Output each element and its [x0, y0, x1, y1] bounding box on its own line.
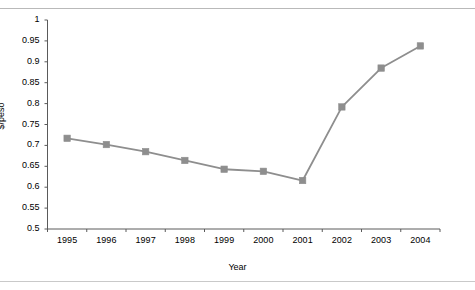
- y-axis-tick-label: 0.6: [10, 181, 40, 191]
- y-axis-tick-label: 0.9: [10, 56, 40, 66]
- series-marker: [417, 43, 423, 49]
- x-axis-title: Year: [0, 262, 475, 272]
- series-marker: [64, 135, 70, 141]
- y-axis-tick-label: 0.8: [10, 98, 40, 108]
- bottom-divider: [0, 281, 475, 282]
- y-axis-tick-label: 0.85: [10, 77, 40, 87]
- x-axis-tick-label: 1996: [86, 235, 126, 245]
- series-marker: [103, 141, 109, 147]
- x-axis-tick-label: 1997: [126, 235, 166, 245]
- series-line: [67, 46, 420, 181]
- x-axis-tick-label: 2001: [283, 235, 323, 245]
- series-marker: [299, 177, 305, 183]
- y-axis-tick-label: 0.65: [10, 160, 40, 170]
- y-axis-tick-label: 0.95: [10, 35, 40, 45]
- chart-series: [64, 43, 424, 184]
- y-axis-tick-label: 0.55: [10, 202, 40, 212]
- chart-figure: $/peso Year 0.50.550.60.650.70.750.80.85…: [0, 9, 475, 281]
- screenshot-page: $/peso Year 0.50.550.60.650.70.750.80.85…: [0, 0, 475, 290]
- series-marker: [142, 148, 148, 154]
- chart-axes: [45, 20, 441, 232]
- series-marker: [339, 104, 345, 110]
- x-axis-tick-label: 2000: [243, 235, 283, 245]
- x-axis-tick-label: 2004: [400, 235, 440, 245]
- x-axis-tick-label: 1999: [204, 235, 244, 245]
- y-axis-tick-label: 0.7: [10, 139, 40, 149]
- y-axis-tick-label: 1: [10, 14, 40, 24]
- series-marker: [221, 166, 227, 172]
- y-axis-tick-label: 0.5: [10, 223, 40, 233]
- x-axis-tick-label: 2003: [361, 235, 401, 245]
- x-axis-tick-label: 1998: [165, 235, 205, 245]
- series-marker: [378, 65, 384, 71]
- x-axis-tick-label: 1995: [47, 235, 87, 245]
- x-axis-tick-label: 2002: [322, 235, 362, 245]
- top-cutoff-text: [0, 0, 475, 7]
- series-marker: [182, 157, 188, 163]
- series-marker: [260, 168, 266, 174]
- y-axis-title: $/peso: [0, 86, 6, 146]
- y-axis-tick-label: 0.75: [10, 119, 40, 129]
